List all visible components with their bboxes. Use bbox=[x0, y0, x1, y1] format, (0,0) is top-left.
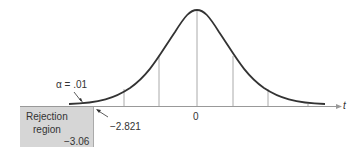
zero-tick-label: 0 bbox=[193, 111, 199, 122]
alpha-label: α = .01 bbox=[56, 79, 87, 90]
rejection-label-1: Rejection bbox=[26, 111, 68, 122]
rejection-label-2: region bbox=[33, 124, 61, 135]
guide-lines bbox=[124, 10, 308, 106]
t-axis-label: t bbox=[343, 100, 346, 111]
critical-value-label: −2.821 bbox=[110, 121, 141, 132]
axis-arrow-icon bbox=[336, 104, 342, 109]
test-statistic-label: −3.06 bbox=[64, 136, 89, 147]
rejection-region: Rejection region −3.06 bbox=[20, 107, 94, 147]
